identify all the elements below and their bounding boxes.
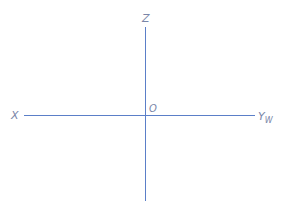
origin-label: O (149, 104, 157, 114)
z-axis-label: Z (142, 13, 150, 24)
y-axis-label: YW (258, 111, 273, 125)
x-axis-label: X (11, 110, 19, 121)
horizontal-axis-line (24, 115, 255, 116)
y-axis-label-subscript: W (265, 116, 273, 125)
y-axis-label-main: Y (258, 110, 265, 123)
vertical-axis-line (145, 27, 146, 201)
